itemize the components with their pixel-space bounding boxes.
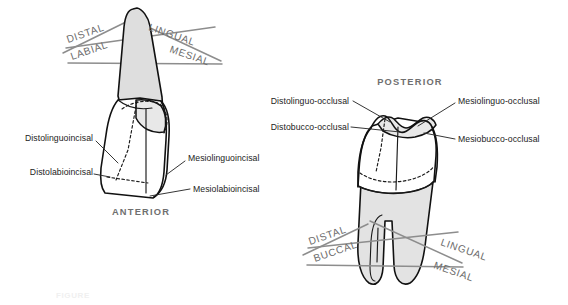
leader-mesiolinguo-occlusal	[418, 103, 455, 126]
posterior-plane-label-mesial: MESIAL	[432, 259, 475, 283]
posterior-arch-label: POSTERIOR	[377, 77, 443, 87]
leader-distolinguo-occlusal	[353, 101, 390, 122]
label-mesiolinguo-occlusal: Mesiolinguo-occlusal	[458, 96, 540, 106]
label-distolabioincisal: Distolabioincisal	[30, 167, 93, 177]
figure-caption-remnant: FIGURE	[56, 291, 90, 300]
label-distobucco-occlusal: Distobucco-occlusal	[271, 122, 349, 132]
tooth-line-angles-diagram: DISTAL LINGUAL LABIAL MESIAL Distolinguo…	[0, 0, 568, 305]
label-mesiolinguoincisal: Mesiolinguoincisal	[188, 153, 259, 163]
anterior-arch-label: ANTERIOR	[112, 207, 170, 217]
leader-mesiolinguoincisal	[166, 161, 185, 175]
posterior-tooth-group: POSTERIOR DISTAL	[271, 77, 540, 284]
posterior-plane-label-lingual: LINGUAL	[439, 236, 488, 262]
label-mesiolabioincisal: Mesiolabioincisal	[193, 184, 260, 194]
label-distolinguo-occlusal: Distolinguo-occlusal	[271, 96, 349, 106]
anterior-tooth-group: DISTAL LINGUAL LABIAL MESIAL Distolinguo…	[25, 8, 260, 217]
figure-root: DISTAL LINGUAL LABIAL MESIAL Distolinguo…	[0, 0, 568, 305]
label-mesiobucco-occlusal: Mesiobucco-occlusal	[458, 134, 540, 144]
label-distolinguoincisal: Distolinguoincisal	[25, 133, 93, 143]
